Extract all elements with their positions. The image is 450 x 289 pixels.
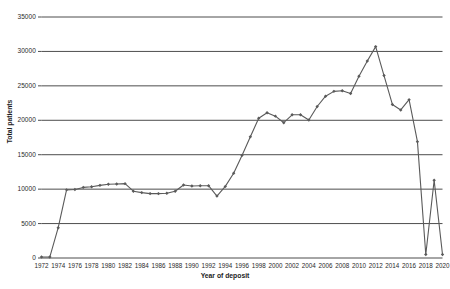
data-point-marker [249, 135, 252, 138]
y-tick-marks [38, 17, 42, 258]
data-point-marker [190, 184, 193, 187]
data-point-marker [82, 186, 85, 189]
data-point-marker [98, 184, 101, 187]
y-tick-label: 15000 [17, 151, 36, 158]
y-tick-label: 35000 [17, 13, 36, 20]
data-point-marker [115, 182, 118, 185]
data-point-marker [416, 140, 419, 143]
data-point-marker [424, 253, 427, 256]
y-tick-label: 0 [32, 254, 36, 261]
data-point-marker [432, 178, 435, 181]
x-tick-label: 2020 [432, 262, 450, 269]
data-point-marker [65, 188, 68, 191]
y-tick-label: 30000 [17, 47, 36, 54]
gridlines [42, 17, 443, 258]
data-point-marker [57, 226, 60, 229]
data-point-marker [199, 184, 202, 187]
data-point-marker [90, 185, 93, 188]
data-point-marker [148, 192, 151, 195]
data-point-marker [157, 192, 160, 195]
data-point-marker [165, 192, 168, 195]
data-point-marker [140, 191, 143, 194]
line-chart: 35000300002500020000150001000050000 1972… [0, 0, 450, 289]
data-point-marker [341, 89, 344, 92]
data-point-marker [73, 188, 76, 191]
data-point-marker [107, 183, 110, 186]
y-tick-label: 10000 [17, 185, 36, 192]
y-tick-label: 25000 [17, 82, 36, 89]
data-point-markers [40, 45, 444, 259]
data-point-marker [349, 92, 352, 95]
chart-plot-area [0, 0, 450, 289]
data-point-marker [441, 253, 444, 256]
x-axis-title: Year of deposit [0, 272, 450, 279]
y-tick-label: 5000 [21, 220, 36, 227]
data-point-marker [240, 154, 243, 157]
y-axis-title: Total patients [6, 87, 13, 157]
data-point-marker [382, 74, 385, 77]
data-series-line [42, 47, 443, 257]
y-tick-label: 20000 [17, 116, 36, 123]
